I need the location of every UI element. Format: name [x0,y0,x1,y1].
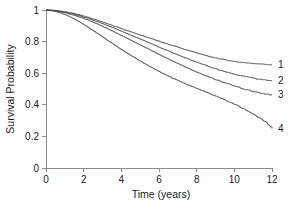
chart-svg: 024681012 00.20.40.60.81 1234 Time (year… [0,0,294,205]
survival-curves [46,10,272,129]
survival-curve-2 [46,10,272,81]
x-axis-title: Time (years) [132,188,191,200]
x-tick-label: 10 [229,174,241,185]
y-axis-title: Survival Probability [4,44,16,134]
x-tick-label: 2 [81,174,87,185]
x-tick-label: 0 [43,174,49,185]
x-tick-label: 4 [119,174,125,185]
y-tick-label: 1 [33,5,39,16]
curve-label-4: 4 [278,123,284,134]
x-tick-label: 6 [156,174,162,185]
survival-curve-1 [46,10,272,65]
y-tick-label: 0.2 [25,131,39,142]
curve-label-2: 2 [278,75,284,86]
survival-curve-figure: 024681012 00.20.40.60.81 1234 Time (year… [0,0,294,205]
y-tick-label: 0 [33,163,39,174]
survival-curve-4 [46,10,272,129]
y-tick-label: 0.6 [25,68,39,79]
curve-end-labels: 1234 [278,59,284,134]
y-tick-label: 0.8 [25,36,39,47]
survival-curve-3 [46,10,272,95]
y-axis-ticks [42,10,46,168]
curve-label-3: 3 [278,89,284,100]
curve-label-1: 1 [278,59,284,70]
x-tick-label: 12 [266,174,278,185]
x-axis-ticks [46,168,272,172]
x-tick-label: 8 [194,174,200,185]
plot-axes [42,10,272,172]
x-axis-tick-labels: 024681012 [43,174,278,185]
y-tick-label: 0.4 [25,99,39,110]
y-axis-tick-labels: 00.20.40.60.81 [25,5,39,174]
